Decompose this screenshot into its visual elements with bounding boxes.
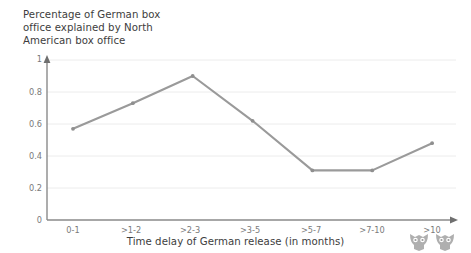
axes-group (44, 55, 458, 223)
data-point-marker (71, 127, 75, 131)
watermark-group (408, 232, 460, 252)
data-point-marker (311, 169, 315, 173)
plot-area: 1 0.8 0.6 0.4 0.2 0 0-1 >1-2 >2-3 >3-5 >… (0, 0, 471, 253)
x-tick-label: >3-5 (240, 225, 260, 235)
y-axis-arrow-icon (44, 55, 51, 63)
data-point-marker (131, 101, 135, 105)
y-tick-label: 0.8 (29, 87, 42, 97)
owl-mark-icon (434, 232, 456, 252)
x-tick-label: >5-7 (301, 225, 321, 235)
x-tick-label: >7-10 (359, 225, 384, 235)
x-axis-arrow-icon (450, 217, 458, 224)
line-chart-figure: Percentage of German box office explaine… (0, 0, 471, 253)
x-axis-title: Time delay of German release (in months) (0, 236, 471, 247)
x-tick-labels-group: 0-1 >1-2 >2-3 >3-5 >5-7 >7-10 >10 (66, 225, 440, 235)
y-tick-label: 0.4 (29, 151, 42, 161)
owl-mark-icon (408, 232, 430, 252)
data-point-markers-group (71, 74, 434, 172)
data-point-marker (430, 141, 434, 145)
y-tick-labels-group: 1 0.8 0.6 0.4 0.2 0 (29, 54, 42, 225)
x-tick-label: 0-1 (66, 225, 79, 235)
y-tick-label: 0.6 (29, 119, 42, 129)
data-point-marker (251, 119, 255, 123)
x-tick-label: >1-2 (121, 225, 141, 235)
y-tick-label: 1 (37, 54, 42, 64)
data-point-marker (191, 74, 195, 78)
x-tick-label: >2-3 (180, 225, 200, 235)
data-point-marker (370, 169, 374, 173)
y-tick-label: 0 (37, 215, 42, 225)
y-tick-label: 0.2 (29, 183, 42, 193)
gridlines-group (47, 60, 456, 188)
